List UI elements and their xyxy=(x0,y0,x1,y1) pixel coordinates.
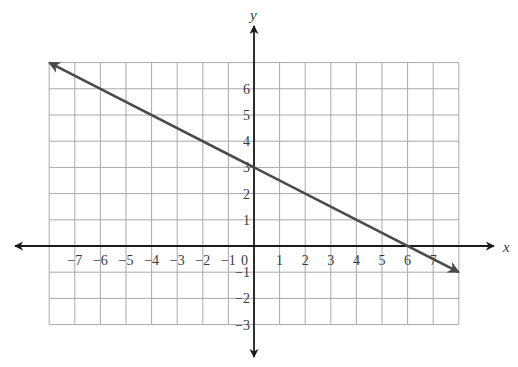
y-tick-label: 6 xyxy=(243,82,250,97)
x-tick-label: 2 xyxy=(302,253,309,268)
y-tick-label: 1 xyxy=(243,213,250,228)
y-tick-label: −3 xyxy=(235,318,250,333)
coordinate-plane: −7−6−5−4−3−2−101234567654321−1−2−3 x y xyxy=(0,0,518,367)
y-tick-label: 5 xyxy=(243,108,250,123)
x-tick-label: −3 xyxy=(170,253,185,268)
x-tick-label: −1 xyxy=(221,253,236,268)
y-tick-label: −1 xyxy=(235,265,250,280)
x-tick-label: 5 xyxy=(379,253,386,268)
x-tick-label: 6 xyxy=(404,253,411,268)
x-tick-label: −6 xyxy=(93,253,108,268)
x-tick-label: 4 xyxy=(353,253,360,268)
y-axis-label: y xyxy=(248,7,257,23)
y-tick-label: 2 xyxy=(243,187,250,202)
y-tick-label: −2 xyxy=(235,291,250,306)
x-axis-label: x xyxy=(502,239,510,255)
y-tick-label: 4 xyxy=(243,134,250,149)
tick-labels: −7−6−5−4−3−2−101234567654321−1−2−3 xyxy=(67,82,436,333)
x-tick-label: −4 xyxy=(144,253,159,268)
x-tick-label: −5 xyxy=(119,253,134,268)
axes xyxy=(15,26,494,357)
x-tick-label: 1 xyxy=(276,253,283,268)
x-tick-label: −7 xyxy=(67,253,82,268)
x-tick-label: 3 xyxy=(327,253,334,268)
x-tick-label: −2 xyxy=(195,253,210,268)
